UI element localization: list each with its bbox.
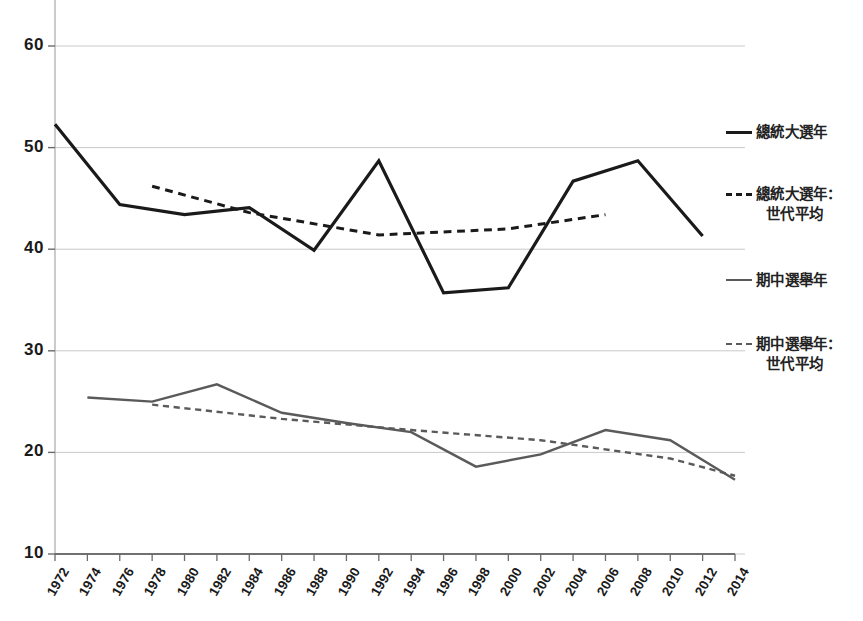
legend-swatch-dash-gray-icon: [726, 337, 752, 351]
y-tick-label-20: 20: [6, 441, 44, 461]
legend-label-3: 期中選舉年：世代平均: [756, 334, 842, 374]
legend-label-line1: 總統大選年：: [756, 186, 842, 202]
line-chart: 605040302010 197219741976197819801982198…: [0, 0, 863, 621]
y-tick-label-40: 40: [6, 238, 44, 258]
legend-entry-1[interactable]: 總統大選年：世代平均: [726, 184, 842, 224]
legend-label-0: 總統大選年: [756, 122, 828, 142]
legend-label-line2: 世代平均: [756, 204, 842, 224]
legend-label-1: 總統大選年：世代平均: [756, 184, 842, 224]
legend-swatch-dash-black-icon: [726, 187, 752, 201]
legend-swatch-solid-gray-icon: [726, 273, 752, 287]
legend-entry-3[interactable]: 期中選舉年：世代平均: [726, 334, 842, 374]
y-tick-label-30: 30: [6, 340, 44, 360]
y-tick-label-50: 50: [6, 137, 44, 157]
y-tick-label-10: 10: [6, 543, 44, 563]
y-tick-label-60: 60: [6, 35, 44, 55]
legend-swatch-solid-black-icon: [726, 125, 752, 139]
plot-area: [0, 0, 863, 621]
legend-label-line1: 期中選舉年: [756, 272, 828, 288]
legend-label-line2: 世代平均: [756, 354, 842, 374]
series-line-2: [87, 384, 735, 480]
legend-entry-2[interactable]: 期中選舉年: [726, 270, 828, 290]
legend-label-line1: 總統大選年: [756, 124, 828, 140]
legend-label-line1: 期中選舉年：: [756, 336, 842, 352]
legend-entry-0[interactable]: 總統大選年: [726, 122, 828, 142]
series-line-3: [152, 405, 735, 476]
series-line-0: [55, 124, 703, 293]
legend-label-2: 期中選舉年: [756, 270, 828, 290]
